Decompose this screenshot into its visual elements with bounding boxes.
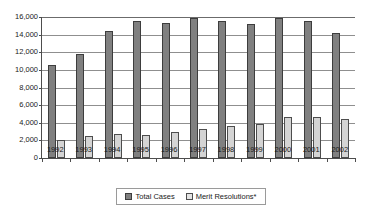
x-axis-label: 2000 [269, 146, 297, 154]
x-axis-tick-mark [127, 158, 128, 162]
legend-item-total-cases: Total Cases [125, 193, 174, 201]
x-axis-tick-mark [213, 158, 214, 162]
legend-swatch-total-cases-icon [125, 193, 132, 200]
x-axis-tick-mark [270, 158, 271, 162]
bar-group [241, 17, 269, 158]
bar-total-cases [105, 31, 113, 158]
legend-label-merit-resolutions: Merit Resolutions* [196, 193, 257, 201]
y-axis-tick-label: 14,000 [15, 31, 38, 39]
legend-item-merit-resolutions: Merit Resolutions* [186, 193, 257, 201]
chart-legend: Total Cases Merit Resolutions* [116, 188, 266, 205]
x-axis-label: 1999 [240, 146, 268, 154]
legend-swatch-merit-resolutions-icon [186, 193, 193, 200]
x-axis-tick-mark [355, 158, 356, 162]
x-axis-label: 1998 [212, 146, 240, 154]
bar-group [99, 17, 127, 158]
x-axis-label: 2001 [297, 146, 325, 154]
x-axis-tick-mark [42, 158, 43, 162]
x-axis-tick-mark [241, 158, 242, 162]
bar-chart: 16,00014,00012,00010,0008,0006,0004,0002… [0, 0, 370, 211]
bar-total-cases [162, 23, 170, 158]
bar-total-cases [332, 33, 340, 158]
bar-total-cases [76, 54, 84, 158]
bar-group [270, 17, 298, 158]
y-axis-tick-label: 10,000 [15, 66, 38, 74]
bar-group [184, 17, 212, 158]
x-axis-tick-mark [298, 158, 299, 162]
bar-total-cases [247, 24, 255, 158]
x-axis-label: 2002 [326, 146, 354, 154]
y-axis-tick-label: 12,000 [15, 49, 38, 57]
x-axis-label: 1994 [98, 146, 126, 154]
x-axis-label: 1996 [155, 146, 183, 154]
y-axis-tick-label: 8,000 [19, 84, 38, 92]
legend-label-total-cases: Total Cases [135, 193, 174, 201]
x-axis-label: 1992 [41, 146, 69, 154]
bar-group [127, 17, 155, 158]
y-axis-tick-label: 6,000 [19, 101, 38, 109]
bar-total-cases [304, 21, 312, 158]
y-axis-tick-label: 16,000 [15, 13, 38, 21]
plot-area: 16,00014,00012,00010,0008,0006,0004,0002… [41, 17, 355, 159]
bar-group [213, 17, 241, 158]
x-axis-label: 1997 [183, 146, 211, 154]
bar-total-cases [190, 18, 198, 158]
y-axis-tick-label: 0 [34, 154, 38, 162]
y-axis-tick-label: 4,000 [19, 119, 38, 127]
x-axis-label: 1995 [126, 146, 154, 154]
bar-group [298, 17, 326, 158]
x-axis-tick-mark [184, 158, 185, 162]
bar-group [156, 17, 184, 158]
bar-total-cases [133, 21, 141, 158]
x-axis-tick-mark [99, 158, 100, 162]
x-axis-label: 1993 [69, 146, 97, 154]
bar-total-cases [275, 18, 283, 158]
bar-total-cases [218, 21, 226, 158]
bar-group [327, 17, 355, 158]
y-axis-tick-label: 2,000 [19, 137, 38, 145]
x-axis-tick-mark [327, 158, 328, 162]
bars-layer [42, 17, 355, 158]
bar-group [42, 17, 70, 158]
x-axis-tick-mark [156, 158, 157, 162]
bar-group [70, 17, 98, 158]
x-axis-tick-mark [70, 158, 71, 162]
